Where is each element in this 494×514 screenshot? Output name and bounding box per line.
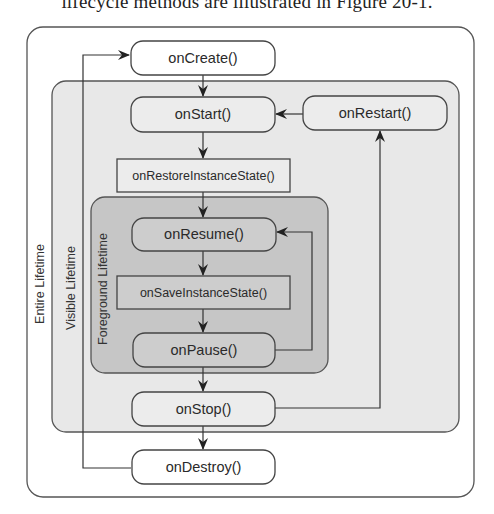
- visible-lifetime-label: Visible Lifetime: [64, 246, 78, 330]
- node-onstart-label: onStart(): [175, 106, 231, 122]
- node-onsaveinstancestate: onSaveInstanceState(): [117, 276, 290, 309]
- node-onstart: onStart(): [131, 97, 275, 132]
- node-onrestart: onRestart(): [303, 96, 447, 130]
- node-onresume-label: onResume(): [164, 226, 244, 242]
- node-onsaveinstancestate-label: onSaveInstanceState(): [140, 286, 267, 300]
- foreground-lifetime-label: Foreground Lifetime: [96, 233, 110, 345]
- node-ondestroy: onDestroy(): [132, 450, 275, 484]
- node-oncreate: onCreate(): [131, 41, 275, 75]
- node-onresume: onResume(): [132, 218, 276, 251]
- activity-lifecycle-diagram: onCreate() onStart() onRestart() onResto…: [0, 0, 494, 514]
- node-onrestoreinstancestate-label: onRestoreInstanceState(): [132, 169, 274, 183]
- entire-lifetime-label: Entire Lifetime: [33, 244, 47, 324]
- node-onstop-label: onStop(): [176, 401, 232, 417]
- node-onrestoreinstancestate: onRestoreInstanceState(): [117, 159, 290, 192]
- node-onpause: onPause(): [133, 333, 275, 367]
- node-onpause-label: onPause(): [171, 342, 238, 358]
- node-ondestroy-label: onDestroy(): [166, 459, 242, 475]
- node-onstop: onStop(): [132, 392, 275, 426]
- node-oncreate-label: onCreate(): [168, 50, 237, 66]
- node-onrestart-label: onRestart(): [339, 105, 412, 121]
